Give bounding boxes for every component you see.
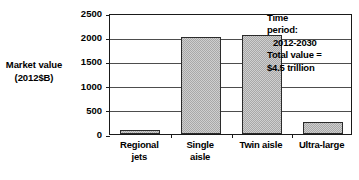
chart-annotation-line: Total value =	[267, 49, 353, 61]
gridline	[110, 111, 351, 112]
y-axis-tick-mark	[106, 111, 110, 112]
y-axis-title: Market value (2012$B)	[2, 58, 66, 84]
chart-annotation-line: Time	[267, 12, 353, 24]
x-axis-tick-mark	[292, 134, 293, 138]
y-axis-tick-mark	[106, 63, 110, 64]
x-axis-tick-label: Ultra-large	[291, 139, 352, 151]
y-axis-title-line-1: Market value	[2, 58, 66, 71]
x-axis-tick-label: Twin aisle	[231, 139, 292, 151]
x-axis-tick-label-line: Single	[170, 139, 231, 151]
y-axis-tick-label: 500	[86, 106, 102, 116]
x-axis-tick-label-line: Twin aisle	[231, 139, 292, 151]
chart-annotation: Timeperiod:2012-2030Total value =$4.5 tr…	[267, 12, 353, 74]
y-axis-tick-mark	[106, 39, 110, 40]
x-axis-tick-label-line: jets	[109, 151, 170, 163]
x-axis-tick-label: Regionaljets	[109, 139, 170, 163]
x-axis-tick-label-line: aisle	[170, 151, 231, 163]
y-axis-tick-labels: 25002000150010005000	[62, 8, 106, 141]
y-axis-title-line-2: (2012$B)	[2, 71, 66, 84]
x-axis-tick-label-line: Ultra-large	[291, 139, 352, 151]
x-axis-tick-label-line: Regional	[109, 139, 170, 151]
bar-ultra-large	[303, 122, 343, 134]
bar-single-aisle	[181, 37, 221, 134]
x-axis-tick-labels: RegionaljetsSingleaisleTwin aisleUltra-l…	[109, 139, 352, 177]
y-axis-tick-label: 1000	[81, 82, 102, 92]
gridline	[110, 87, 351, 88]
x-axis-tick-label: Singleaisle	[170, 139, 231, 163]
bar-chart-figure: Market value (2012$B) 250020001500100050…	[0, 0, 359, 180]
y-axis-tick-label: 0	[97, 130, 102, 140]
bar-regional-jets	[120, 130, 160, 134]
y-axis-tick-mark	[106, 136, 110, 137]
chart-annotation-line: 2012-2030	[267, 37, 353, 49]
x-axis-tick-mark	[232, 134, 233, 138]
y-axis-tick-mark	[106, 87, 110, 88]
x-axis-tick-mark	[171, 134, 172, 138]
y-axis-tick-label: 2000	[81, 33, 102, 43]
chart-annotation-line: $4.5 trillion	[267, 62, 353, 74]
y-axis-tick-label: 1500	[81, 57, 102, 67]
chart-annotation-line: period:	[267, 24, 353, 36]
y-axis-tick-label: 2500	[81, 9, 102, 19]
y-axis-tick-mark	[106, 15, 110, 16]
